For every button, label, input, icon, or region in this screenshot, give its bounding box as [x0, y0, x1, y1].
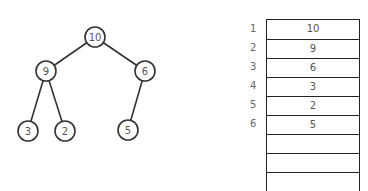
array-index: 3	[250, 57, 262, 76]
array-cell: 10	[267, 20, 359, 39]
array-index	[250, 171, 262, 190]
tree-node: 10	[85, 27, 105, 47]
tree-node: 3	[18, 121, 38, 141]
node-label: 10	[89, 32, 102, 43]
array-cell: 3	[267, 77, 359, 96]
tree-node: 2	[55, 121, 75, 141]
array-cell: 2	[267, 96, 359, 115]
node-label: 5	[125, 125, 131, 136]
tree-nodes: 1096325	[18, 27, 155, 141]
array-cell	[267, 172, 359, 191]
heap-array: 10 9 6 3 2 5	[266, 19, 360, 191]
array-cell: 5	[267, 115, 359, 134]
array-index: 5	[250, 95, 262, 114]
array-index: 4	[250, 76, 262, 95]
array-indices: 1 2 3 4 5 6	[250, 19, 262, 190]
array-cell: 6	[267, 58, 359, 77]
array-index	[250, 152, 262, 171]
node-label: 6	[142, 66, 148, 77]
array-cell	[267, 134, 359, 153]
tree-edges	[28, 37, 145, 131]
tree-node: 5	[118, 120, 138, 140]
tree-node: 9	[36, 61, 56, 81]
tree-node: 6	[135, 61, 155, 81]
array-index: 2	[250, 38, 262, 57]
array-index: 1	[250, 19, 262, 38]
array-cell	[267, 153, 359, 172]
array-index: 6	[250, 114, 262, 133]
heap-tree: 1096325	[0, 0, 200, 191]
array-cell: 9	[267, 39, 359, 58]
node-label: 2	[62, 126, 68, 137]
node-label: 9	[43, 66, 49, 77]
node-label: 3	[25, 126, 31, 137]
array-index	[250, 133, 262, 152]
